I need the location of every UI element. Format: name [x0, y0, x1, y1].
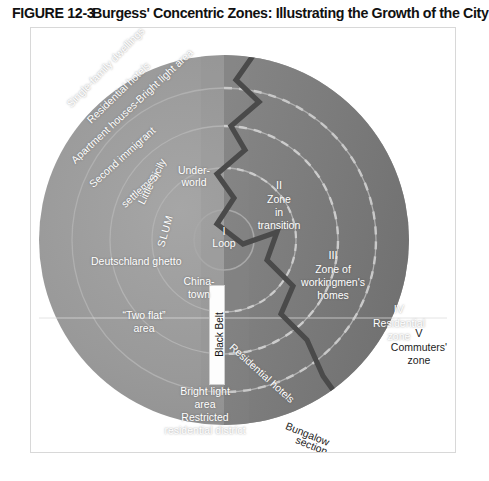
figure-title-bar: FIGURE 12-3 Burgess' Concentric Zones: I… [0, 0, 463, 26]
black-belt-strip: Black Belt [209, 285, 225, 385]
page-title: Burgess' Concentric Zones: Illustrating … [92, 4, 489, 22]
black-belt-label: Black Belt [214, 290, 225, 380]
figure-number: FIGURE 12-3 [12, 4, 94, 22]
figure-frame: Black Belt Single-family dwellings Resid… [30, 27, 456, 453]
concentric-zones-diagram [31, 28, 455, 452]
